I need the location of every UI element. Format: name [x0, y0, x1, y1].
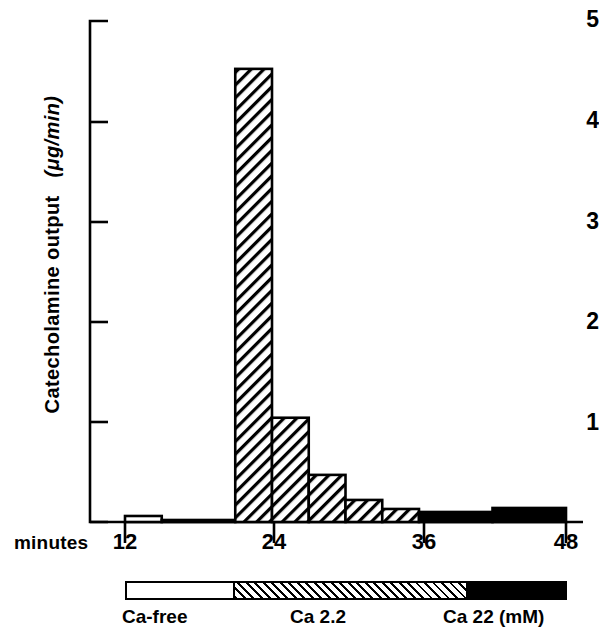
bar-36-42 [419, 512, 493, 522]
bar-series [125, 69, 566, 522]
legend-segment-ca-22 [466, 581, 567, 600]
x-tick-label-36: 36 [401, 531, 447, 553]
y-axis-spine [90, 21, 108, 522]
x-tick-label-24: 24 [251, 531, 297, 553]
legend-segment-ca-2-2 [233, 581, 468, 600]
bar-12-15 [125, 516, 162, 522]
x-tick-label-12: 12 [102, 531, 148, 553]
bar-33-36 [382, 509, 419, 522]
bar-15-21 [162, 520, 236, 522]
legend-label-ca-2-2: Ca 2.2 [290, 606, 346, 628]
catecholamine-output-bar-chart: Catecholamine output (μg/min) 5 4 3 2 1 [0, 0, 599, 635]
legend-label-ca-free: Ca-free [122, 606, 187, 628]
plot-area [0, 0, 599, 635]
bar-27-30 [309, 475, 346, 522]
x-tick-label-48: 48 [543, 531, 589, 553]
legend-segment-ca-free [125, 581, 235, 600]
bar-42-48 [493, 508, 567, 522]
bar-30-33 [346, 500, 383, 522]
bar-21-24 [235, 69, 272, 522]
legend-label-ca-22: Ca 22 (mM) [443, 606, 544, 628]
x-tick-marks [125, 522, 566, 543]
bar-24-27 [272, 418, 309, 522]
x-axis-title: minutes [14, 532, 88, 554]
y-tick-marks [90, 122, 108, 422]
